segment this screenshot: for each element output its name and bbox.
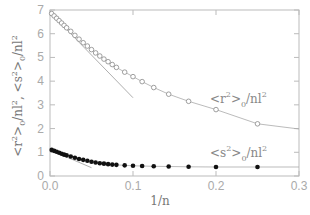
svg-text:<r2>0/nl2, <s2>0/nl2: <r2>0/nl2, <s2>0/nl2 [10, 35, 27, 157]
filled-circle-point [98, 161, 103, 166]
filled-circle-point [110, 162, 115, 167]
filled-circle-point [64, 153, 69, 158]
open-circle-point [140, 79, 145, 84]
filled-circle-point [102, 161, 107, 166]
open-circle-point [151, 85, 156, 90]
open-circle-point [214, 107, 219, 112]
annotation-s: <s2>0/nl2 [210, 144, 267, 163]
y-tick-label: 0 [37, 169, 44, 183]
y-axis-label: <r2>0/nl2, <s2>0/nl2 [10, 35, 27, 157]
open-circle-point [102, 57, 107, 62]
open-circle-point [106, 59, 111, 64]
tangent-lines [50, 12, 133, 167]
open-circle-point [77, 37, 82, 42]
y-tick-label: 4 [37, 74, 44, 88]
open-circle-point [131, 74, 136, 79]
filled-circle-point [68, 154, 73, 159]
filled-circle-point [214, 165, 219, 170]
tick-labels: 0.00.10.20.301234567 [37, 3, 307, 193]
x-tick-label: 0.0 [42, 179, 59, 193]
filled-circle-point [81, 158, 86, 163]
annotation-r: <r2>0/nl2 [210, 90, 267, 109]
filled-circle-point [93, 160, 98, 165]
filled-circle-point [73, 155, 78, 160]
open-circle-point [98, 54, 103, 59]
y-tick-label: 7 [37, 3, 44, 17]
open-circle-point [114, 65, 119, 70]
filled-circle-point [89, 159, 94, 164]
x-axis-label: 1/n [150, 194, 170, 208]
open-circle-point [81, 40, 86, 45]
x-tick-label: 0.3 [291, 179, 308, 193]
filled-circle-point [122, 163, 127, 168]
x-tick-label: 0.1 [125, 179, 142, 193]
open-circle-point [186, 99, 191, 104]
filled-circle-point [140, 164, 145, 169]
open-circle-point [255, 122, 260, 127]
filled-circle-point [166, 164, 171, 169]
x-tick-label: 0.2 [208, 179, 225, 193]
open-circle-point [110, 62, 115, 67]
y-tick-label: 6 [37, 27, 44, 41]
filled-circle-point [151, 164, 156, 169]
open-circle-point [93, 51, 98, 56]
filled-circle-point [77, 157, 82, 162]
filled-circle-point [85, 159, 90, 164]
filled-circle-point [106, 162, 111, 167]
open-circle-point [64, 25, 69, 30]
open-circle-point [122, 70, 127, 75]
open-circle-point [89, 47, 94, 52]
y-tick-label: 1 [37, 145, 44, 159]
open-circle-point [85, 44, 90, 49]
filled-circle-point [186, 164, 191, 169]
chart: 0.00.10.20.301234567 1/n <r2>0/nl2, <s2>… [0, 0, 310, 215]
open-circle-point [68, 29, 73, 34]
filled-circle-point [114, 163, 119, 168]
y-tick-label: 5 [37, 50, 44, 64]
filled-circle-point [131, 164, 136, 169]
filled-circle-point [255, 165, 260, 170]
open-circle-point [166, 92, 171, 97]
y-tick-label: 3 [37, 98, 44, 112]
fit-curve [52, 14, 299, 129]
open-circle-point [73, 33, 78, 38]
y-tick-label: 2 [37, 122, 44, 136]
